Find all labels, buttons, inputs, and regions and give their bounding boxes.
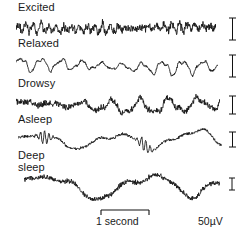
amplitude-scale-bar-relaxed	[228, 54, 237, 78]
amplitude-scale-bar-asleep	[228, 131, 237, 148]
stage-label-drowsy: Drowsy	[18, 78, 55, 90]
i-beam-icon	[229, 18, 236, 40]
eeg-waveform-path	[24, 173, 220, 201]
i-beam-icon	[229, 178, 235, 190]
eeg-trace-asleep	[18, 126, 222, 154]
voltage-scale-caption: 50µV	[198, 215, 223, 227]
amplitude-scale-bar-excited	[228, 17, 237, 41]
amplitude-scale-bar-drowsy	[228, 95, 237, 115]
stage-label-relaxed: Relaxed	[18, 38, 59, 50]
i-beam-icon	[229, 55, 236, 77]
stage-label-excited: Excited	[18, 2, 55, 14]
amplitude-scale-bar-deep-sleep	[228, 177, 236, 191]
time-scale-caption: 1 second	[96, 215, 139, 227]
eeg-waveform-path	[16, 58, 218, 77]
i-beam-icon	[229, 132, 236, 147]
eeg-trace-excited	[16, 18, 216, 38]
eeg-trace-relaxed	[16, 54, 218, 78]
eeg-waveform-path	[18, 128, 222, 152]
eeg-waveform-path	[16, 19, 216, 36]
i-beam-icon	[229, 96, 236, 114]
eeg-trace-deep-sleep	[24, 168, 220, 202]
eeg-trace-drowsy	[16, 93, 220, 117]
eeg-figure: Excited Relaxed Drowsy Asleep Deep sleep…	[0, 0, 248, 236]
eeg-waveform-path	[16, 94, 220, 115]
